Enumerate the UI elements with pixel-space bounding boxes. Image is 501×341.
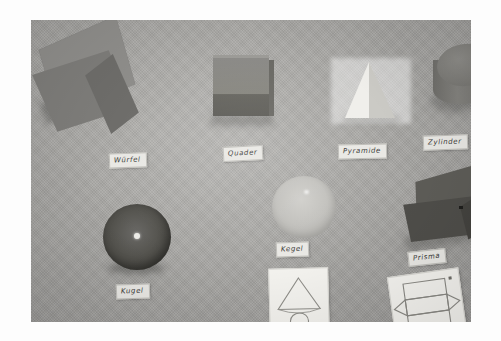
shape-pyramid	[331, 54, 411, 128]
label-wuerfel: Würfel	[109, 152, 147, 168]
label-kegel: Kegel	[276, 241, 310, 257]
cone-net-drawing	[269, 268, 329, 322]
shape-sphere-dark	[103, 204, 175, 276]
photo-frame: Würfel Quader Pyramide Zylinder Kugel Ke…	[0, 0, 501, 341]
prism-net-drawing	[388, 268, 466, 322]
sphere-light-highlight	[304, 190, 309, 194]
cuboid-face-front	[213, 58, 269, 116]
label-prisma: Prisma	[407, 248, 447, 267]
card-cone-net	[268, 267, 330, 322]
shape-cuboid	[211, 58, 273, 132]
shape-cylinder	[431, 44, 471, 128]
card-prism-net	[387, 267, 467, 322]
sphere-highlight	[134, 233, 140, 239]
sphere-light-body	[272, 176, 336, 238]
label-kugel: Kugel	[116, 283, 150, 299]
display-board: Würfel Quader Pyramide Zylinder Kugel Ke…	[31, 20, 471, 322]
pyramid-face-right	[369, 62, 395, 118]
cuboid-face-right	[269, 60, 274, 116]
label-pyramide: Pyramide	[338, 144, 387, 160]
prism-face-front	[403, 196, 471, 242]
label-zylinder: Zylinder	[423, 134, 468, 151]
shape-cube	[39, 30, 145, 134]
shape-sphere-light	[272, 176, 340, 244]
shape-triangular-prism	[401, 172, 471, 258]
prism-marking	[459, 206, 463, 209]
label-quader: Quader	[223, 145, 264, 162]
